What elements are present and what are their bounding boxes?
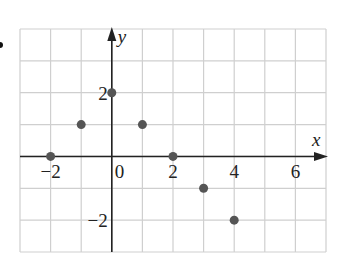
x-axis-label: x: [311, 129, 321, 150]
axes: x y: [20, 26, 328, 252]
x-tick-label: 4: [229, 161, 239, 182]
data-point: [169, 152, 178, 161]
y-axis-label: y: [116, 26, 127, 47]
x-tick-label: 6: [291, 161, 301, 182]
data-point: [46, 152, 55, 161]
x-tick-label: 0: [115, 161, 125, 182]
x-tick-label: 2: [168, 161, 178, 182]
data-point: [107, 88, 116, 97]
y-tick-label: −2: [88, 210, 108, 231]
problem-bullet: [0, 42, 3, 48]
data-point: [230, 216, 239, 225]
data-point: [138, 120, 147, 129]
x-tick-label: −2: [40, 161, 60, 182]
y-tick-label: 2: [98, 83, 108, 104]
data-point: [77, 120, 86, 129]
grid-lines: [20, 29, 326, 252]
scatter-chart: x y −202462−2: [0, 0, 348, 277]
data-point: [199, 184, 208, 193]
